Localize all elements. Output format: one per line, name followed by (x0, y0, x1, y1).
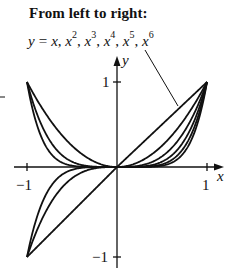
x-axis-label: x (216, 168, 224, 184)
y-axis-arrow-icon (114, 56, 121, 66)
leader-line (145, 50, 178, 106)
axes (0, 50, 224, 268)
y-tick-label-pos1: 1 (102, 74, 110, 90)
power-functions-plot: −1 1 x 1 −1 y (0, 0, 230, 274)
x-tick-label-pos1: 1 (202, 177, 210, 193)
y-axis-label: y (120, 52, 129, 68)
x-tick-label-neg1: −1 (16, 177, 32, 193)
y-tick-label-neg1: −1 (92, 249, 108, 265)
